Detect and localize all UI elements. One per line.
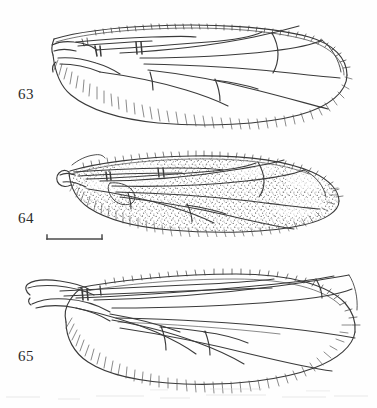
scale-bar bbox=[42, 230, 112, 248]
figure-65-drawing bbox=[16, 248, 361, 398]
figure-64-drawing bbox=[50, 145, 350, 237]
figure-63-fringe bbox=[54, 60, 352, 129]
figure-65-label: 65 bbox=[18, 349, 34, 364]
figure-65-fringe bbox=[66, 318, 351, 393]
figure-63-costal-setae bbox=[95, 24, 350, 68]
wing-plate: 63 bbox=[0, 0, 377, 408]
figure-64-label: 64 bbox=[18, 211, 34, 226]
figure-63-label: 63 bbox=[18, 87, 34, 102]
figure-63-drawing bbox=[40, 6, 360, 131]
